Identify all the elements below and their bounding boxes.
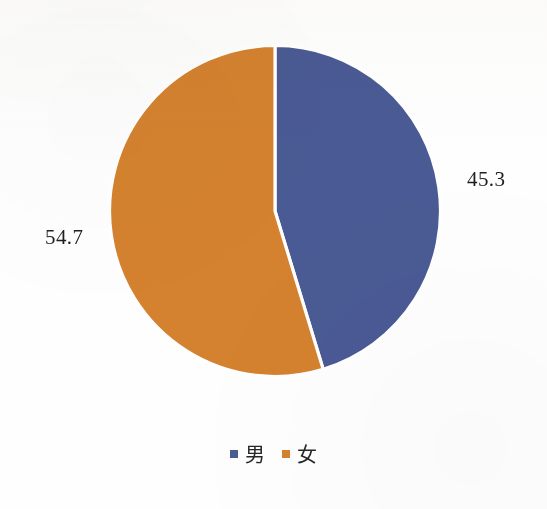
slice-value-label-female: 54.7 [45,227,83,248]
legend-label-female: 女 [297,445,317,465]
legend-swatch-male-icon [230,450,238,458]
legend-item-male[interactable]: 男 [230,444,265,464]
pie-slice-group [110,46,441,377]
slice-value-label-male: 45.3 [467,169,505,190]
chart-legend: 男 女 [0,444,547,464]
legend-label-male: 男 [245,445,265,465]
legend-item-female[interactable]: 女 [282,444,317,464]
pie-svg [108,44,442,378]
pie-plot-area [108,44,442,378]
pie-chart: 45.3 54.7 男 女 [0,0,547,509]
legend-swatch-female-icon [282,450,290,458]
